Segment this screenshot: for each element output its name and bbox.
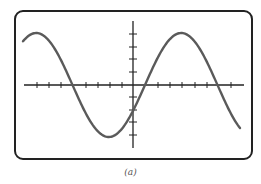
axes bbox=[24, 21, 244, 148]
oscilloscope-figure bbox=[0, 0, 261, 184]
figure-caption: (a) bbox=[0, 167, 261, 177]
